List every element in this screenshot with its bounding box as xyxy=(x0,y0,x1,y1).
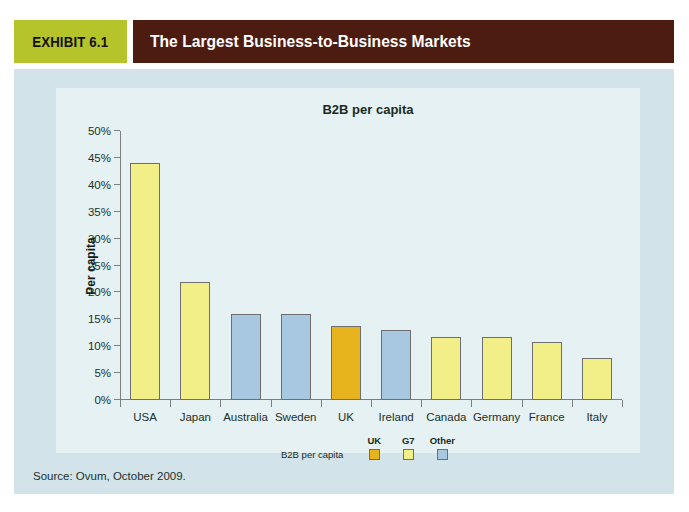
source-note: Source: Ovum, October 2009. xyxy=(33,470,186,482)
x-axis-ticks xyxy=(120,400,622,407)
x-tick-mark xyxy=(170,400,171,407)
bar-slot xyxy=(220,131,270,400)
x-tick-label-sweden: Sweden xyxy=(271,411,321,423)
y-tick-label: 35% xyxy=(88,206,111,218)
exhibit-title: The Largest Business-to-Business Markets xyxy=(150,32,471,52)
bar-slot xyxy=(321,131,371,400)
bar-slot xyxy=(522,131,572,400)
chart-title: B2B per capita xyxy=(56,102,640,117)
bar-germany[interactable] xyxy=(482,337,512,400)
exhibit-header: EXHIBIT 6.1 The Largest Business-to-Busi… xyxy=(14,20,674,63)
x-tick-label-canada: Canada xyxy=(421,411,471,423)
bar-slot xyxy=(421,131,471,400)
bar-slot xyxy=(271,131,321,400)
y-tick-label: 15% xyxy=(88,313,111,325)
x-tick-mark xyxy=(321,400,322,407)
bar-france[interactable] xyxy=(532,342,562,400)
x-tick-label-australia: Australia xyxy=(220,411,270,423)
x-tick-label-italy: Italy xyxy=(572,411,622,423)
bar-sweden[interactable] xyxy=(281,314,311,400)
x-tick-mark xyxy=(120,400,121,407)
y-tick-label: 0% xyxy=(94,394,111,406)
x-tick-label-france: France xyxy=(522,411,572,423)
exhibit-title-bar: The Largest Business-to-Business Markets xyxy=(133,20,674,63)
x-axis-labels: USAJapanAustraliaSwedenUKIrelandCanadaGe… xyxy=(120,411,622,423)
x-tick-mark xyxy=(271,400,272,407)
bar-slot xyxy=(471,131,521,400)
y-tick-label: 10% xyxy=(88,340,111,352)
chart-card: B2B per capita Per capita 0%5%10%15%20%2… xyxy=(56,88,640,453)
bar-slot xyxy=(170,131,220,400)
exhibit-number-tag: EXHIBIT 6.1 xyxy=(14,20,127,63)
y-tick-label: 40% xyxy=(88,179,111,191)
bar-japan[interactable] xyxy=(180,282,210,400)
bar-australia[interactable] xyxy=(231,314,261,400)
legend-header-uk: UK xyxy=(357,435,391,446)
y-tick-label: 20% xyxy=(88,286,111,298)
chart-legend: UKG7OtherB2B per capita xyxy=(281,435,459,460)
x-tick-label-germany: Germany xyxy=(471,411,521,423)
plot-area: Per capita 0%5%10%15%20%25%30%35%40%45%5… xyxy=(120,131,622,400)
legend-swatch-other[interactable] xyxy=(437,449,448,460)
bar-series xyxy=(120,131,622,400)
y-tick-label: 30% xyxy=(88,233,111,245)
x-tick-mark xyxy=(220,400,221,407)
exhibit-page: EXHIBIT 6.1 The Largest Business-to-Busi… xyxy=(0,0,689,512)
legend-swatch-cell xyxy=(357,449,391,460)
bar-canada[interactable] xyxy=(431,337,461,400)
x-tick-label-usa: USA xyxy=(120,411,170,423)
bar-slot xyxy=(371,131,421,400)
x-tick-mark xyxy=(421,400,422,407)
bar-slot xyxy=(120,131,170,400)
x-tick-mark xyxy=(572,400,573,407)
bar-slot xyxy=(572,131,622,400)
legend-swatch-cell xyxy=(425,449,459,460)
exhibit-number-label: EXHIBIT 6.1 xyxy=(32,33,108,50)
x-tick-mark xyxy=(371,400,372,407)
x-tick-label-uk: UK xyxy=(321,411,371,423)
x-tick-label-japan: Japan xyxy=(170,411,220,423)
x-tick-mark xyxy=(471,400,472,407)
legend-swatch-uk[interactable] xyxy=(369,449,380,460)
x-tick-mark xyxy=(522,400,523,407)
legend-swatch-cell xyxy=(391,449,425,460)
x-tick-mark xyxy=(622,400,623,407)
legend-header-other: Other xyxy=(425,435,459,446)
bar-ireland[interactable] xyxy=(381,330,411,400)
x-tick-label-ireland: Ireland xyxy=(371,411,421,423)
y-tick-label: 25% xyxy=(88,260,111,272)
y-tick-label: 45% xyxy=(88,152,111,164)
legend-row-label: B2B per capita xyxy=(281,449,357,460)
legend-header-g7: G7 xyxy=(391,435,425,446)
y-tick-label: 5% xyxy=(94,367,111,379)
legend-swatch-g7[interactable] xyxy=(403,449,414,460)
y-tick-label: 50% xyxy=(88,125,111,137)
bar-usa[interactable] xyxy=(130,163,160,400)
exhibit-body-panel: B2B per capita Per capita 0%5%10%15%20%2… xyxy=(14,69,674,494)
bar-italy[interactable] xyxy=(582,358,612,400)
bar-uk[interactable] xyxy=(331,326,361,400)
